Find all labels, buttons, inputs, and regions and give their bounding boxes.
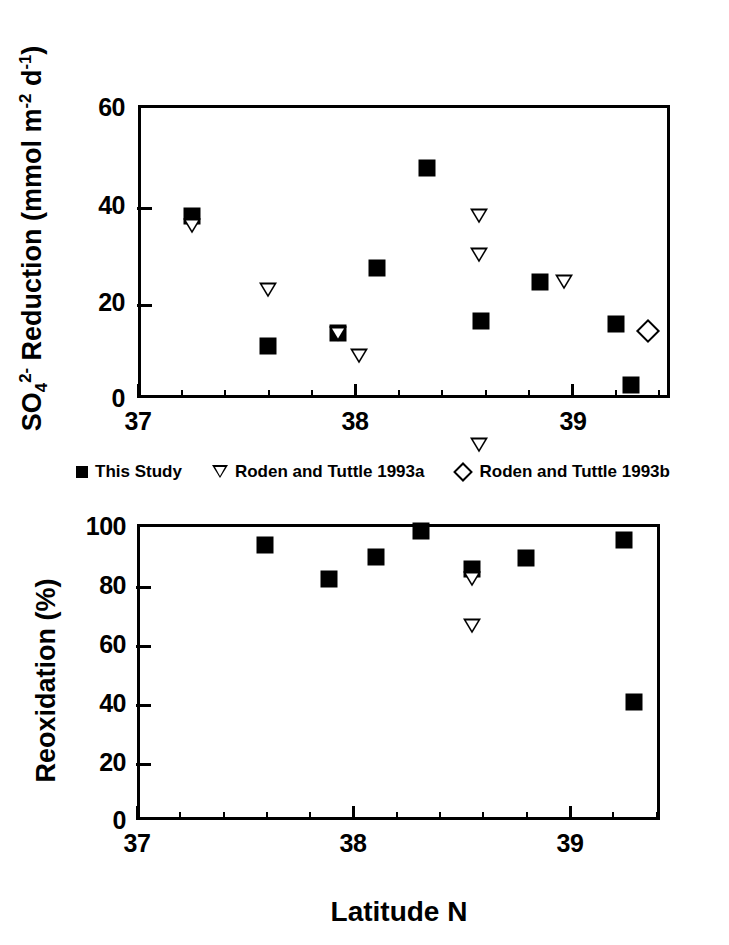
data-points-bottom <box>0 0 729 945</box>
data-point <box>463 619 481 634</box>
data-point <box>517 549 534 566</box>
figure-scatter-panels: SO42- Reduction (mmol m-2 d-1) 60 40 20 … <box>0 0 729 945</box>
x-axis-title: Latitude N <box>199 896 599 928</box>
data-point <box>368 548 385 565</box>
data-point <box>626 693 643 710</box>
data-point <box>321 571 338 588</box>
panel-reoxidation: Reoxidation (%) 100 80 60 40 20 0 37 38 … <box>0 0 729 945</box>
data-point <box>463 571 481 586</box>
data-point <box>615 531 632 548</box>
data-point <box>412 523 429 540</box>
data-point <box>257 536 274 553</box>
